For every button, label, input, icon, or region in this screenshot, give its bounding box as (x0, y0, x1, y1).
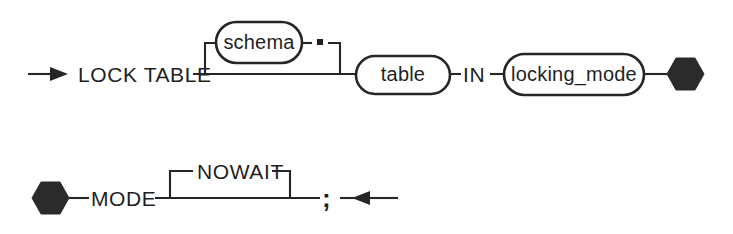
keyword-mode: MODE (91, 187, 156, 210)
hexagon-continuation-end-icon (667, 58, 704, 90)
keyword-in: IN (463, 63, 485, 86)
railroad-canvas: LOCK TABLE schema table IN lock (0, 0, 733, 234)
rail-nowait-branch-left (170, 171, 193, 198)
nonterminal-schema-label: schema (223, 31, 295, 53)
syntax-diagram: LOCK TABLE schema table IN lock (0, 0, 733, 234)
nonterminal-schema[interactable]: schema (216, 22, 302, 63)
keyword-lock-table: LOCK TABLE (78, 63, 212, 86)
hexagon-continuation-start-icon (32, 182, 69, 214)
exit-arrow-icon (352, 191, 398, 205)
period-separator-icon (317, 39, 323, 45)
nonterminal-locking-mode-label: locking_mode (511, 63, 637, 86)
nonterminal-table[interactable]: table (356, 56, 450, 94)
semicolon-terminator: ; (322, 183, 331, 213)
entry-arrow-icon (28, 67, 68, 81)
rail-schema-branch-right (328, 43, 340, 74)
nonterminal-locking-mode[interactable]: locking_mode (504, 54, 644, 95)
nonterminal-table-label: table (381, 63, 425, 85)
keyword-nowait: NOWAIT (197, 160, 284, 183)
